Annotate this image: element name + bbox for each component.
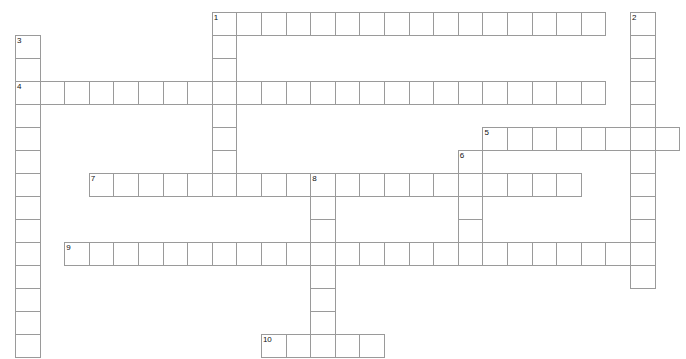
- crossword-cell[interactable]: [433, 12, 459, 36]
- crossword-cell[interactable]: [310, 288, 336, 312]
- crossword-cell[interactable]: [458, 196, 484, 220]
- crossword-cell[interactable]: [138, 173, 164, 197]
- crossword-cell[interactable]: [630, 196, 656, 220]
- crossword-cell[interactable]: [433, 173, 459, 197]
- crossword-cell[interactable]: [384, 242, 410, 266]
- crossword-cell[interactable]: [433, 242, 459, 266]
- crossword-cell[interactable]: [507, 127, 533, 151]
- crossword-cell[interactable]: [581, 12, 607, 36]
- crossword-cell[interactable]: [310, 196, 336, 220]
- crossword-cell[interactable]: [15, 127, 41, 151]
- crossword-cell[interactable]: [261, 173, 287, 197]
- crossword-cell[interactable]: [556, 12, 582, 36]
- crossword-cell[interactable]: [212, 150, 238, 174]
- crossword-cell[interactable]: [138, 242, 164, 266]
- crossword-cell[interactable]: [507, 81, 533, 105]
- crossword-cell[interactable]: [532, 12, 558, 36]
- crossword-cell[interactable]: [630, 12, 656, 36]
- crossword-cell[interactable]: [187, 173, 213, 197]
- crossword-cell[interactable]: [359, 81, 385, 105]
- crossword-cell[interactable]: [212, 242, 238, 266]
- crossword-cell[interactable]: [89, 242, 115, 266]
- crossword-cell[interactable]: [581, 127, 607, 151]
- crossword-cell[interactable]: [630, 173, 656, 197]
- crossword-cell[interactable]: [15, 311, 41, 335]
- crossword-cell[interactable]: [359, 242, 385, 266]
- crossword-cell[interactable]: [630, 242, 656, 266]
- crossword-cell[interactable]: [335, 81, 361, 105]
- crossword-cell[interactable]: [310, 219, 336, 243]
- crossword-cell[interactable]: [310, 265, 336, 289]
- crossword-cell[interactable]: [212, 81, 238, 105]
- crossword-cell[interactable]: [15, 58, 41, 82]
- crossword-cell[interactable]: [15, 104, 41, 128]
- crossword-cell[interactable]: [261, 242, 287, 266]
- crossword-cell[interactable]: [113, 242, 139, 266]
- crossword-cell[interactable]: [138, 81, 164, 105]
- crossword-cell[interactable]: [261, 81, 287, 105]
- crossword-cell[interactable]: [236, 242, 262, 266]
- crossword-cell[interactable]: [458, 150, 484, 174]
- crossword-cell[interactable]: [15, 196, 41, 220]
- crossword-cell[interactable]: [113, 173, 139, 197]
- crossword-cell[interactable]: [359, 173, 385, 197]
- crossword-cell[interactable]: [532, 127, 558, 151]
- crossword-cell[interactable]: [212, 58, 238, 82]
- crossword-cell[interactable]: [384, 173, 410, 197]
- crossword-cell[interactable]: [40, 81, 66, 105]
- crossword-cell[interactable]: [556, 242, 582, 266]
- crossword-cell[interactable]: [630, 58, 656, 82]
- crossword-cell[interactable]: [384, 81, 410, 105]
- crossword-cell[interactable]: [482, 127, 508, 151]
- crossword-cell[interactable]: [310, 81, 336, 105]
- crossword-cell[interactable]: [630, 265, 656, 289]
- crossword-cell[interactable]: [458, 12, 484, 36]
- crossword-cell[interactable]: [556, 127, 582, 151]
- crossword-cell[interactable]: [532, 81, 558, 105]
- crossword-cell[interactable]: [335, 334, 361, 358]
- crossword-cell[interactable]: [409, 12, 435, 36]
- crossword-cell[interactable]: [236, 12, 262, 36]
- crossword-cell[interactable]: [630, 127, 656, 151]
- crossword-cell[interactable]: [310, 12, 336, 36]
- crossword-cell[interactable]: [236, 173, 262, 197]
- crossword-cell[interactable]: [286, 81, 312, 105]
- crossword-cell[interactable]: [15, 334, 41, 358]
- crossword-cell[interactable]: [212, 127, 238, 151]
- crossword-cell[interactable]: [556, 173, 582, 197]
- crossword-cell[interactable]: [261, 334, 287, 358]
- crossword-cell[interactable]: [409, 173, 435, 197]
- crossword-cell[interactable]: [212, 12, 238, 36]
- crossword-cell[interactable]: [458, 219, 484, 243]
- crossword-cell[interactable]: [630, 219, 656, 243]
- crossword-cell[interactable]: [310, 311, 336, 335]
- crossword-cell[interactable]: [630, 150, 656, 174]
- crossword-cell[interactable]: [359, 12, 385, 36]
- crossword-cell[interactable]: [187, 81, 213, 105]
- crossword-cell[interactable]: [482, 173, 508, 197]
- crossword-cell[interactable]: [507, 242, 533, 266]
- crossword-cell[interactable]: [212, 35, 238, 59]
- crossword-cell[interactable]: [286, 242, 312, 266]
- crossword-cell[interactable]: [384, 12, 410, 36]
- crossword-cell[interactable]: [630, 81, 656, 105]
- crossword-grid[interactable]: 12345678910: [0, 0, 686, 359]
- crossword-cell[interactable]: [409, 81, 435, 105]
- crossword-cell[interactable]: [15, 81, 41, 105]
- crossword-cell[interactable]: [286, 12, 312, 36]
- crossword-cell[interactable]: [15, 35, 41, 59]
- crossword-cell[interactable]: [89, 173, 115, 197]
- crossword-cell[interactable]: [64, 242, 90, 266]
- crossword-cell[interactable]: [187, 242, 213, 266]
- crossword-cell[interactable]: [64, 81, 90, 105]
- crossword-cell[interactable]: [89, 81, 115, 105]
- crossword-cell[interactable]: [310, 173, 336, 197]
- crossword-cell[interactable]: [286, 173, 312, 197]
- crossword-cell[interactable]: [310, 242, 336, 266]
- crossword-cell[interactable]: [458, 173, 484, 197]
- crossword-cell[interactable]: [212, 173, 238, 197]
- crossword-cell[interactable]: [163, 81, 189, 105]
- crossword-cell[interactable]: [605, 127, 631, 151]
- crossword-cell[interactable]: [630, 35, 656, 59]
- crossword-cell[interactable]: [113, 81, 139, 105]
